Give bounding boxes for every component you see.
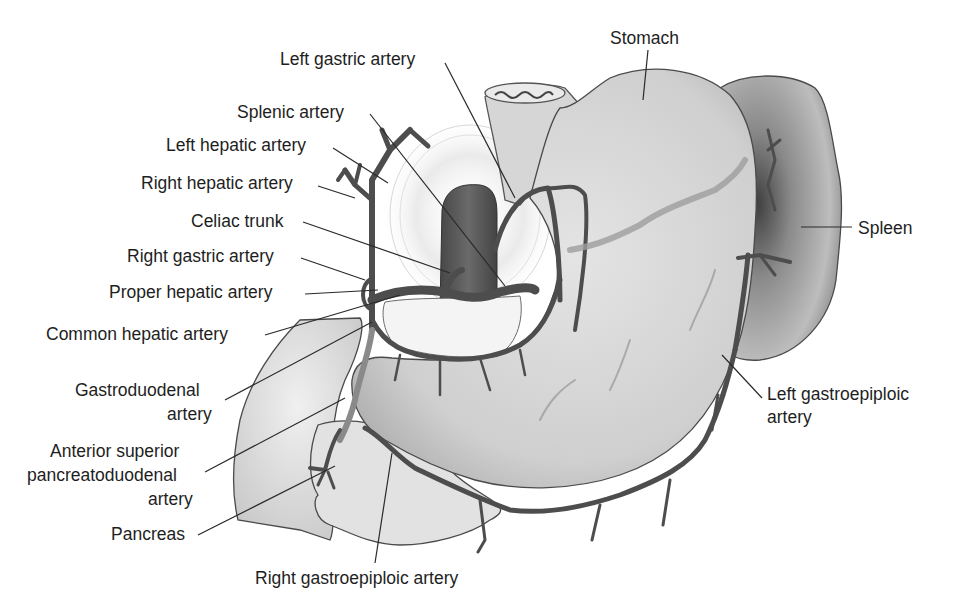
label-left-hepatic-artery: Left hepatic artery [166, 135, 306, 155]
label-anterior-superior-pd-line2: pancreatoduodenal [27, 465, 177, 485]
label-stomach: Stomach [610, 28, 679, 48]
label-anterior-superior-pd-line1: Anterior superior [50, 441, 180, 461]
label-splenic-artery: Splenic artery [237, 102, 344, 122]
leader-proper-hepatic [305, 290, 378, 294]
label-proper-hepatic-artery: Proper hepatic artery [109, 282, 273, 302]
label-anterior-superior-pd-line3: artery [148, 489, 193, 509]
label-right-gastroepiploic-artery: Right gastroepiploic artery [255, 568, 459, 588]
label-left-gastroepiploic-artery-line2: artery [767, 407, 812, 427]
label-celiac-trunk: Celiac trunk [191, 211, 284, 231]
label-left-gastric-artery: Left gastric artery [280, 49, 415, 69]
label-gastroduodenal-artery-line2: artery [167, 404, 212, 424]
label-gastroduodenal-artery-line1: Gastroduodenal [75, 380, 200, 400]
label-right-hepatic-artery: Right hepatic artery [141, 173, 293, 193]
leader-right-hepatic [318, 186, 355, 198]
leader-right-gastric [301, 258, 365, 280]
label-common-hepatic-artery: Common hepatic artery [46, 324, 228, 344]
label-pancreas: Pancreas [111, 524, 185, 544]
label-spleen: Spleen [858, 218, 913, 238]
stomach-arterial-supply-diagram: Stomach Spleen Left gastric artery Splen… [0, 0, 959, 596]
label-right-gastric-artery: Right gastric artery [127, 246, 274, 266]
label-left-gastroepiploic-artery-line1: Left gastroepiploic [767, 384, 909, 404]
